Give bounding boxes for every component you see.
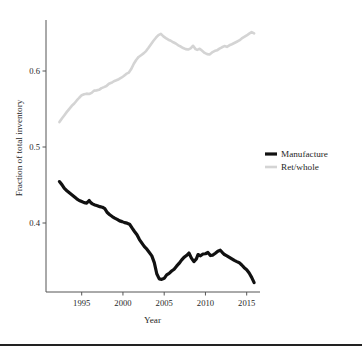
legend-label-ret-whole: Ret/whole — [281, 162, 319, 172]
page-bottom-rule — [0, 344, 362, 346]
x-axis-title: Year — [144, 315, 161, 325]
x-tick-label: 2000 — [114, 298, 131, 308]
y-tick-label: 0.6 — [29, 66, 40, 76]
x-tick-label: 2015 — [238, 298, 255, 308]
x-tick-label: 1995 — [73, 298, 90, 308]
x-tick-label: 2005 — [156, 298, 173, 308]
x-tick-label: 2010 — [197, 298, 214, 308]
chart-figure: 0.40.50.619952000200520102015YearFractio… — [0, 0, 362, 351]
y-tick-label: 0.5 — [29, 142, 40, 152]
series-line-manufacture — [59, 182, 254, 283]
legend-label-manufacture: Manufacture — [281, 149, 328, 159]
y-axis-title: Fraction of total inventory — [14, 99, 24, 196]
y-tick-label: 0.4 — [29, 218, 40, 228]
line-chart: 0.40.50.619952000200520102015YearFractio… — [0, 0, 362, 351]
series-line-ret-whole — [59, 32, 254, 122]
